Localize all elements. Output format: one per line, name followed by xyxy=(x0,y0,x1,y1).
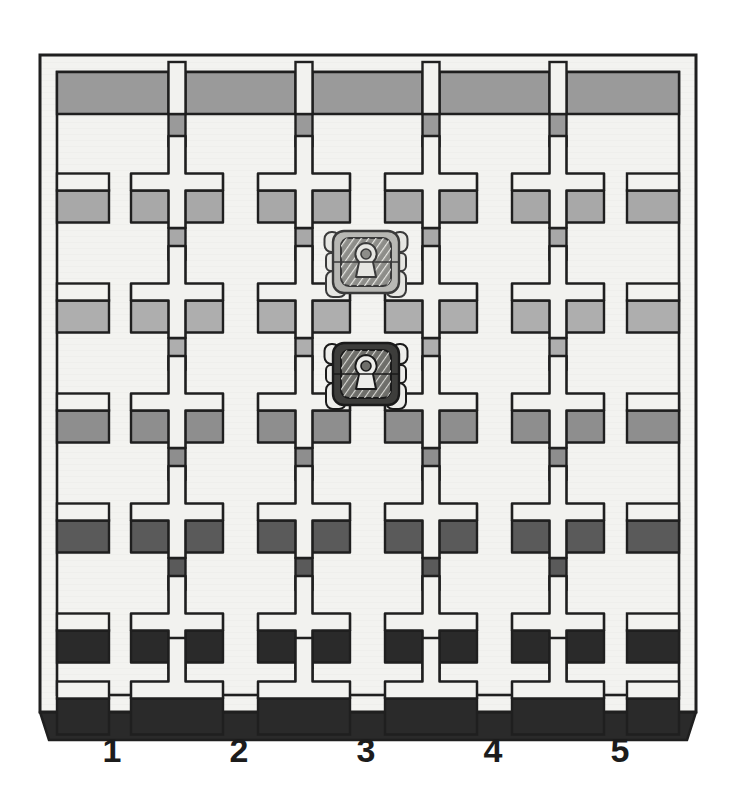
robot-lens-icon xyxy=(361,249,371,259)
top-wall-3 xyxy=(440,72,550,114)
top-wall-shadow xyxy=(57,72,169,114)
left-edge-face xyxy=(57,174,109,191)
robot-light[interactable] xyxy=(325,231,408,297)
top-wall-shadow xyxy=(313,72,423,114)
left-edge-post-4 xyxy=(57,614,109,663)
left-edge-shadow xyxy=(57,301,109,333)
top-stub-2 xyxy=(423,62,440,146)
top-wall-1 xyxy=(186,72,296,114)
top-stub-0 xyxy=(169,62,186,146)
maze-diagram xyxy=(0,0,734,808)
axis-label-4: 4 xyxy=(473,728,513,772)
left-edge-face xyxy=(57,284,109,301)
axis-label-2: 2 xyxy=(219,728,259,772)
maze-scene: 1 2 3 4 5 xyxy=(0,0,734,808)
right-edge-face xyxy=(627,394,679,411)
right-edge-shadow xyxy=(627,521,679,553)
right-edge-shadow xyxy=(627,411,679,443)
top-stub-face xyxy=(550,62,567,114)
left-edge-post-2 xyxy=(57,394,109,443)
right-edge-face xyxy=(627,284,679,301)
left-edge-face xyxy=(57,394,109,411)
bottom-corner-face xyxy=(627,682,679,699)
left-edge-post-1 xyxy=(57,284,109,333)
left-edge-face xyxy=(57,504,109,521)
bottom-corner-0 xyxy=(57,682,109,735)
top-stub-3 xyxy=(550,62,567,146)
top-wall-4 xyxy=(567,72,680,114)
axis-label-5: 5 xyxy=(600,728,640,772)
left-edge-shadow xyxy=(57,631,109,663)
left-edge-post-3 xyxy=(57,504,109,553)
top-stub-1 xyxy=(296,62,313,146)
robot-lens-icon xyxy=(361,361,371,371)
axis-label-1: 1 xyxy=(92,728,132,772)
right-edge-post-3 xyxy=(627,504,679,553)
robot-turret xyxy=(356,355,377,389)
right-edge-shadow xyxy=(627,191,679,223)
column-axis: 1 2 3 4 5 xyxy=(0,728,734,788)
robot-dark[interactable] xyxy=(325,343,408,409)
top-wall-shadow xyxy=(440,72,550,114)
top-stub-face xyxy=(296,62,313,114)
right-edge-shadow xyxy=(627,631,679,663)
top-stub-face xyxy=(423,62,440,114)
right-edge-post-4 xyxy=(627,614,679,663)
left-edge-shadow xyxy=(57,191,109,223)
top-wall-0 xyxy=(57,72,169,114)
top-wall-2 xyxy=(313,72,423,114)
left-edge-shadow xyxy=(57,521,109,553)
right-edge-post-1 xyxy=(627,284,679,333)
robot-turret xyxy=(356,243,377,277)
right-edge-face xyxy=(627,614,679,631)
left-edge-post-0 xyxy=(57,174,109,223)
bottom-corner-1 xyxy=(627,682,679,735)
right-edge-face xyxy=(627,504,679,521)
right-edge-shadow xyxy=(627,301,679,333)
top-wall-shadow xyxy=(186,72,296,114)
top-wall-shadow xyxy=(567,72,680,114)
right-edge-post-0 xyxy=(627,174,679,223)
axis-label-3: 3 xyxy=(346,728,386,772)
right-edge-face xyxy=(627,174,679,191)
right-edge-post-2 xyxy=(627,394,679,443)
left-edge-shadow xyxy=(57,411,109,443)
top-stub-face xyxy=(169,62,186,114)
left-edge-face xyxy=(57,614,109,631)
bottom-corner-face xyxy=(57,682,109,699)
